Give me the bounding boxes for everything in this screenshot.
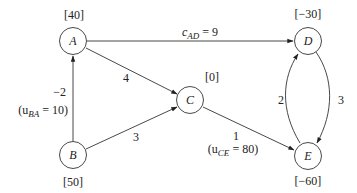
node-e-supply: [−60] (295, 174, 322, 188)
edge-d-e-cost-label: 3 (338, 93, 344, 107)
node-c-supply: [0] (205, 70, 219, 84)
edge-c-e-cost-label: 1 (233, 129, 239, 143)
node-d: D [−30] (295, 7, 322, 55)
edge-e-d (286, 54, 301, 143)
node-c: C [0] (177, 70, 220, 114)
edge-b-c (86, 107, 177, 149)
node-a-supply: [40] (64, 8, 84, 22)
node-e: E [−60] (295, 143, 322, 189)
node-b-label: B (69, 148, 77, 162)
edge-a-d-cost-label: cAD = 9 (182, 25, 218, 41)
node-d-label: D (303, 34, 313, 48)
edge-c-e-capacity-label: (uCE = 80) (208, 142, 258, 158)
node-a-label: A (68, 34, 77, 48)
node-b: B [50] (60, 142, 87, 190)
edge-a-c (86, 48, 177, 94)
node-a: A [40] (60, 8, 87, 55)
node-b-supply: [50] (63, 175, 83, 189)
node-c-label: C (186, 93, 195, 107)
edge-e-d-cost-label: 2 (278, 93, 284, 107)
edge-b-a-cost-label: −2 (53, 85, 66, 99)
edge-a-c-cost-label: 4 (123, 71, 129, 85)
edge-b-a-capacity-label: (uBA = 10) (18, 103, 68, 119)
edge-b-c-cost-label: 3 (133, 130, 139, 144)
node-e-label: E (303, 149, 312, 163)
node-d-supply: [−30] (295, 7, 322, 21)
edge-d-e (316, 52, 330, 143)
network-diagram: A [40] B [50] C [0] D [−30] E [−60] cAD … (0, 0, 357, 193)
